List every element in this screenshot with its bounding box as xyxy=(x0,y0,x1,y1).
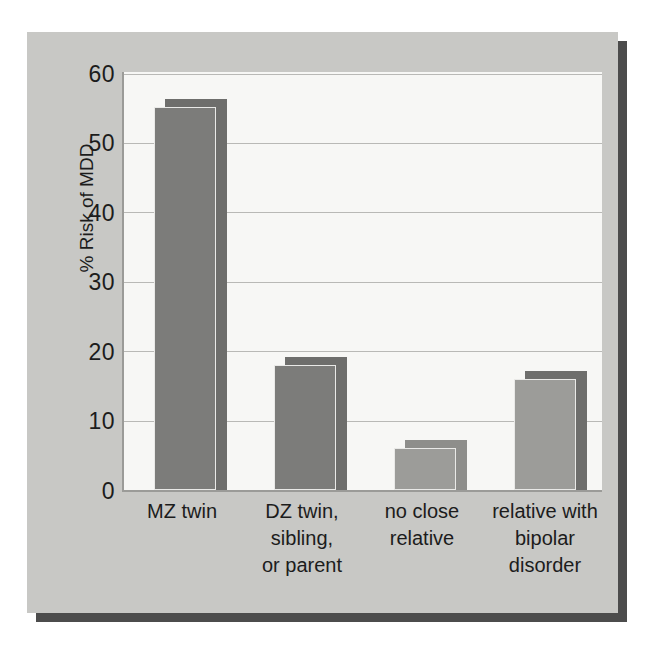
x-tick-label-dz-twin-sibling-parent: DZ twin, sibling, or parent xyxy=(242,498,362,579)
bar-front-face xyxy=(154,107,216,490)
bar-front-face xyxy=(514,379,576,490)
x-tick-label-line: no close xyxy=(362,498,482,525)
x-tick-label-relative-with-bipolar-disorder: relative with bipolar disorder xyxy=(480,498,610,579)
y-tick-label: 10 xyxy=(55,408,115,435)
bar-no-close-relative xyxy=(394,72,474,490)
bar-front-face xyxy=(394,448,456,490)
x-tick-label-line: relative xyxy=(362,525,482,552)
bar-relative-with-bipolar-disorder xyxy=(514,72,594,490)
y-tick-label: 20 xyxy=(55,339,115,366)
y-tick-label: 0 xyxy=(55,478,115,505)
x-tick-label-line: MZ twin xyxy=(122,498,242,525)
y-tick-label: 50 xyxy=(55,130,115,157)
chart-panel: % Risk of MDD 60 50 40 30 20 10 0 xyxy=(27,32,618,613)
bar-mz-twin xyxy=(154,72,234,490)
x-tick-label-mz-twin: MZ twin xyxy=(122,498,242,525)
x-tick-label-line: bipolar xyxy=(480,525,610,552)
x-tick-label-line: sibling, xyxy=(242,525,362,552)
x-tick-label-line: or parent xyxy=(242,552,362,579)
x-tick-label-line: disorder xyxy=(480,552,610,579)
x-tick-label-line: DZ twin, xyxy=(242,498,362,525)
x-axis-tick-labels: MZ twin DZ twin, sibling, or parent no c… xyxy=(122,498,600,608)
x-tick-label-no-close-relative: no close relative xyxy=(362,498,482,552)
x-tick-label-line: relative with xyxy=(480,498,610,525)
y-tick-label: 40 xyxy=(55,200,115,227)
plot-area xyxy=(122,72,602,492)
y-tick-label: 60 xyxy=(55,61,115,88)
y-axis-tick-labels: 60 50 40 30 20 10 0 xyxy=(47,72,115,490)
bar-front-face xyxy=(274,365,336,490)
bar-dz-twin-sibling-parent xyxy=(274,72,354,490)
y-tick-label: 30 xyxy=(55,269,115,296)
chart-figure: % Risk of MDD 60 50 40 30 20 10 0 xyxy=(0,0,659,649)
